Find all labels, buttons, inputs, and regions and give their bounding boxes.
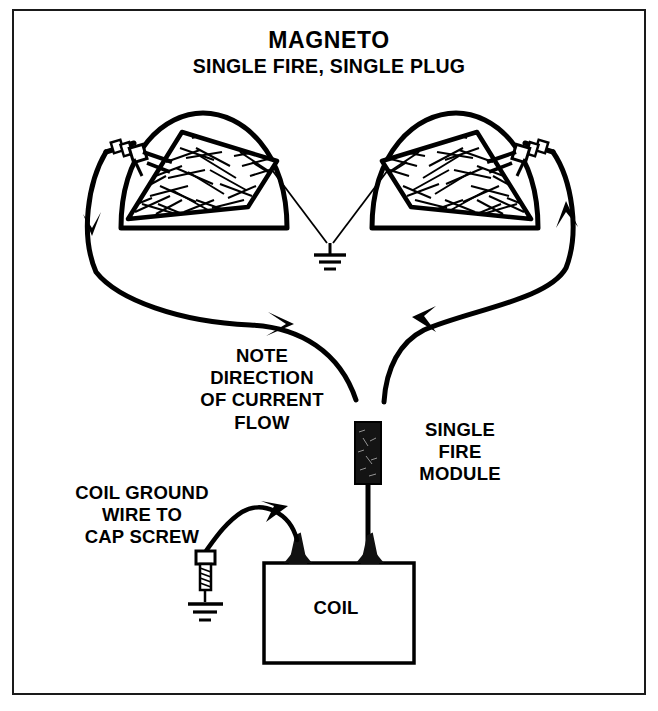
label-coil-ground-wire: COIL GROUND WIRE TO CAP SCREW	[48, 482, 236, 549]
ground-symbol-cap-screw	[188, 604, 223, 620]
label-single-fire-module: SINGLE FIRE MODULE	[400, 419, 520, 486]
cylinder-head-right	[372, 113, 553, 228]
ground-symbol-center	[314, 243, 346, 269]
label-current-flow: NOTE DIRECTION OF CURRENT FLOW	[186, 345, 338, 434]
cap-screw	[196, 551, 215, 602]
ground-leads	[272, 170, 388, 243]
page-subtitle: SINGLE FIRE, SINGLE PLUG	[0, 55, 658, 77]
cylinder-head-left	[106, 113, 287, 228]
page-title: MAGNETO	[0, 27, 658, 53]
diagram-page: MAGNETO SINGLE FIRE, SINGLE PLUG NOTE DI…	[0, 0, 658, 711]
label-coil: COIL	[264, 597, 408, 618]
